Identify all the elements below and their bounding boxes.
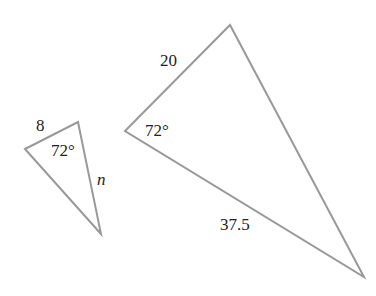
large-triangle: 20 72° 37.5	[125, 25, 364, 277]
similar-triangles-diagram: 8 72° n 20 72° 37.5	[0, 0, 376, 296]
small-triangle-outline	[25, 122, 101, 234]
unknown-side-label: n	[97, 170, 106, 189]
small-angle-label: 72°	[51, 141, 75, 160]
large-bottom-side-label: 37.5	[220, 215, 250, 234]
large-top-side-label: 20	[160, 51, 177, 70]
small-triangle: 8 72° n	[25, 116, 106, 234]
large-angle-label: 72°	[145, 121, 169, 140]
small-side-label: 8	[36, 116, 45, 135]
